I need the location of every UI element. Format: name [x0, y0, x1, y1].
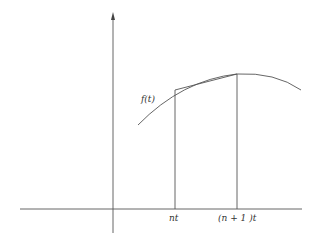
diagram-canvas: [0, 0, 315, 242]
function-label: f(t): [141, 94, 155, 104]
x-tick-label-n-plus-1-t: (n + 1 )t: [218, 213, 256, 223]
chord: [175, 74, 237, 90]
function-curve: [138, 74, 301, 125]
y-axis-arrow-icon: [111, 12, 115, 20]
x-tick-label-nt: nt: [169, 213, 178, 223]
